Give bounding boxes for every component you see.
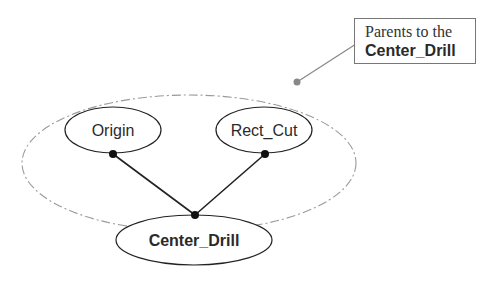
node-center-drill[interactable]: Center_Drill bbox=[116, 215, 272, 265]
node-rect-cut-label: Rect_Cut bbox=[231, 122, 298, 140]
node-rect-cut[interactable]: Rect_Cut bbox=[216, 107, 312, 153]
parents-callout: Parents to the Center_Drill bbox=[354, 18, 476, 64]
callout-anchor-dot bbox=[294, 79, 301, 86]
connection-dot-origin bbox=[109, 150, 117, 158]
edge-origin-to-center-drill bbox=[113, 154, 195, 215]
connection-dot-center-drill bbox=[191, 211, 199, 219]
callout-connector bbox=[297, 44, 356, 82]
callout-text-line1: Parents to the bbox=[365, 23, 475, 41]
node-origin[interactable]: Origin bbox=[65, 107, 161, 153]
node-origin-label: Origin bbox=[92, 122, 135, 139]
connection-dot-rect-cut bbox=[261, 150, 269, 158]
edge-rect-cut-to-center-drill bbox=[195, 154, 265, 215]
callout-text-line2: Center_Drill bbox=[365, 41, 475, 60]
node-center-drill-label: Center_Drill bbox=[149, 232, 240, 249]
